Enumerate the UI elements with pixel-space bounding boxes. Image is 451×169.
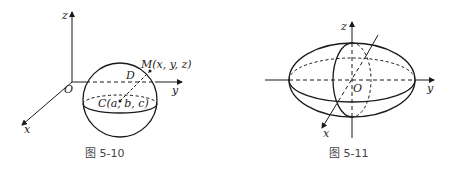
x-label-2: x <box>323 127 330 140</box>
point-d-label: D <box>125 69 135 82</box>
horizontal-section-back <box>289 58 415 80</box>
x-label: x <box>24 123 31 136</box>
z-label-2: z <box>340 20 347 33</box>
figure-5-10 <box>22 12 182 137</box>
figure-5-11 <box>265 22 434 138</box>
figure-canvas: z y x O M(x, y, z) D C(a, b, c) 图 5-10 z… <box>0 0 451 169</box>
figure-5-11-labels: z y x O 图 5-11 <box>323 20 434 160</box>
point-m-label: M(x, y, z) <box>140 58 192 71</box>
center-c-label: C(a, b, c) <box>98 97 149 110</box>
caption-5-11: 图 5-11 <box>329 147 368 160</box>
z-label: z <box>61 9 68 22</box>
caption-5-10: 图 5-10 <box>85 147 124 160</box>
y-label-2: y <box>426 82 434 95</box>
figure-5-10-labels: z y x O M(x, y, z) D C(a, b, c) 图 5-10 <box>24 9 192 160</box>
x-axis-bottom-2 <box>322 105 336 128</box>
horizontal-section-front <box>289 80 415 102</box>
origin-label-2: O <box>353 82 362 95</box>
y-label: y <box>171 84 179 97</box>
origin-label: O <box>64 83 73 96</box>
